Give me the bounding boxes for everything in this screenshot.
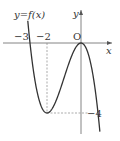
ytick-neg4: −4 xyxy=(87,108,102,119)
x-axis-label: x xyxy=(106,45,112,56)
origin-label: O xyxy=(73,31,81,42)
xtick-neg3: −3 xyxy=(14,31,29,42)
function-graph: y=f(x) y x O −3 −2 −4 xyxy=(0,0,120,141)
xtick-neg2: −2 xyxy=(36,31,51,42)
y-axis-label: y xyxy=(72,8,79,19)
y-axis-arrow-icon xyxy=(79,10,83,15)
curve-label: y=f(x) xyxy=(13,9,45,20)
